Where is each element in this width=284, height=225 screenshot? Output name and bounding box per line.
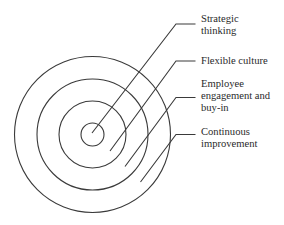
label-line: Flexible culture: [201, 55, 268, 67]
label-line: Continuous: [201, 126, 258, 138]
leader-line-strategic-thinking: [92, 24, 196, 133]
third-circle: [37, 79, 148, 190]
second-circle: [59, 101, 126, 168]
label-line: engagement and: [201, 90, 270, 102]
leader-line-continuous-improvement: [141, 135, 196, 183]
leader-lines-group: [92, 24, 196, 182]
inner-circle: [81, 123, 104, 146]
outer-circle: [15, 57, 171, 213]
leader-line-flexible-culture: [110, 61, 196, 151]
label-strategic-thinking: Strategic thinking: [201, 13, 239, 37]
label-line: improvement: [201, 138, 258, 150]
label-employee-engagement: Employee engagement and buy-in: [201, 78, 270, 114]
circles-group: [15, 57, 171, 213]
label-line: Strategic: [201, 13, 239, 25]
label-line: thinking: [201, 25, 239, 37]
label-line: Employee: [201, 78, 270, 90]
label-line: buy-in: [201, 102, 270, 114]
label-flexible-culture: Flexible culture: [201, 55, 268, 67]
label-continuous-improvement: Continuous improvement: [201, 126, 258, 150]
